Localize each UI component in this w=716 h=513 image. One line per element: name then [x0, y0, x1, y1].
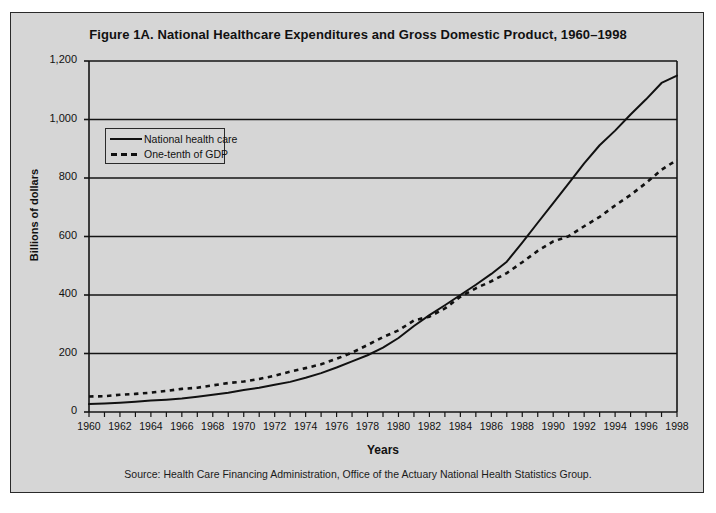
y-tick-label: 0: [31, 404, 77, 416]
y-axis-title: Billions of dollars: [28, 150, 40, 280]
chart-legend: National health care One-tenth of GDP: [105, 128, 225, 164]
x-tick-label: 1970: [227, 420, 261, 432]
legend-label-1: One-tenth of GDP: [144, 148, 228, 160]
x-tick-label: 1992: [567, 420, 601, 432]
x-tick-label: 1966: [165, 420, 199, 432]
plot-area: 02004006008001,0001,20019601962196419661…: [11, 13, 705, 494]
legend-item-one-tenth-of-gdp: One-tenth of GDP: [110, 146, 228, 161]
x-tick-label: 1974: [289, 420, 323, 432]
y-tick-label: 200: [31, 346, 77, 358]
legend-label-0: National health care: [144, 133, 237, 145]
x-tick-label: 1986: [474, 420, 508, 432]
x-tick-label: 1988: [505, 420, 539, 432]
legend-solid-line-icon: [110, 134, 142, 144]
x-tick-label: 1972: [258, 420, 292, 432]
x-tick-label: 1994: [598, 420, 632, 432]
x-axis-title: Years: [89, 443, 677, 457]
y-tick-label: 400: [31, 287, 77, 299]
x-tick-label: 1968: [196, 420, 230, 432]
x-tick-label: 1998: [660, 420, 694, 432]
x-tick-label: 1990: [536, 420, 570, 432]
series-line-1: [89, 160, 677, 397]
source-note: Source: Health Care Financing Administra…: [11, 468, 705, 480]
series-line-0: [89, 76, 677, 404]
legend-dashed-line-icon: [110, 149, 142, 159]
x-tick-label: 1980: [381, 420, 415, 432]
x-tick-label: 1964: [134, 420, 168, 432]
y-tick-label: 1,200: [31, 53, 77, 65]
x-tick-label: 1982: [412, 420, 446, 432]
x-tick-label: 1996: [629, 420, 663, 432]
x-tick-label: 1976: [320, 420, 354, 432]
x-tick-label: 1984: [443, 420, 477, 432]
x-tick-label: 1960: [72, 420, 106, 432]
x-tick-label: 1978: [351, 420, 385, 432]
y-tick-label: 1,000: [31, 112, 77, 124]
legend-item-national-health-care: National health care: [110, 131, 237, 146]
x-tick-label: 1962: [103, 420, 137, 432]
figure-frame: Figure 1A. National Healthcare Expenditu…: [10, 12, 704, 493]
